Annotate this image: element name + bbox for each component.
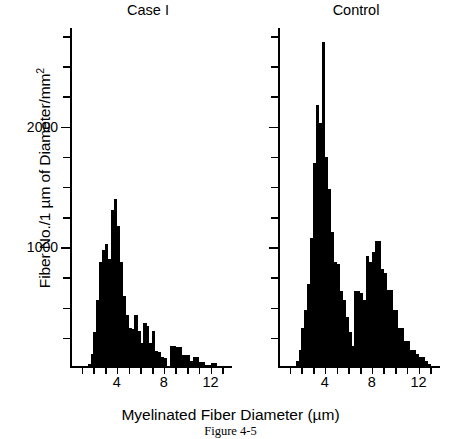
x-axis-tick-label: 4 bbox=[321, 374, 329, 390]
x-axis-tick-label: 12 bbox=[202, 374, 218, 390]
x-axis-tick-minor bbox=[140, 368, 142, 374]
panel-title-control: Control bbox=[270, 2, 442, 18]
plot-area-case-1 bbox=[70, 30, 234, 368]
y-axis-tick-minor bbox=[63, 36, 70, 38]
x-axis-tick-minor bbox=[187, 368, 189, 374]
x-axis-tick-major bbox=[372, 367, 374, 374]
y-axis-tick-minor bbox=[271, 66, 278, 68]
x-axis-tick-major bbox=[211, 367, 213, 374]
x-axis-tick-major bbox=[325, 367, 327, 374]
x-axis-tick-minor bbox=[395, 368, 397, 374]
figure-caption: Figure 4-5 bbox=[0, 424, 461, 439]
y-axis-tick-minor bbox=[63, 338, 70, 340]
x-axis-tick-minor bbox=[290, 368, 292, 374]
x-axis-title: Myelinated Fiber Diameter (µm) bbox=[0, 406, 461, 424]
y-axis-tick-minor bbox=[271, 308, 278, 310]
y-axis-tick-minor bbox=[63, 308, 70, 310]
x-axis-tick-minor bbox=[313, 368, 315, 374]
x-axis-tick-minor bbox=[348, 368, 350, 374]
y-axis-tick-minor bbox=[271, 217, 278, 219]
panel-title-case-1: Case I bbox=[62, 2, 234, 18]
x-axis-tick-minor bbox=[105, 368, 107, 374]
x-axis-tick-major bbox=[117, 367, 119, 374]
y-axis-tick-major bbox=[269, 127, 278, 129]
y-axis-tick-minor bbox=[271, 36, 278, 38]
y-axis-tick-major bbox=[269, 247, 278, 249]
y-axis-tick-minor bbox=[63, 217, 70, 219]
x-axis-tick-minor bbox=[82, 368, 84, 374]
y-axis-tick-minor bbox=[271, 96, 278, 98]
panel-case-1: Case I 10002000 4812 bbox=[62, 18, 234, 386]
plot-area-control bbox=[278, 30, 442, 368]
x-axis-tick-minor bbox=[175, 368, 177, 374]
figure-4-5: Fiber No./1 µm of Diameter/mm2 Case I 10… bbox=[0, 0, 461, 439]
y-axis-tick-minor bbox=[63, 187, 70, 189]
y-axis-tick-minor bbox=[271, 157, 278, 159]
x-axis-tick-minor bbox=[407, 368, 409, 374]
y-axis-tick-minor bbox=[63, 96, 70, 98]
x-axis-tick-label: 8 bbox=[368, 374, 376, 390]
x-axis-tick-minor bbox=[199, 368, 201, 374]
y-axis-tick-minor bbox=[63, 277, 70, 279]
y-axis-title-superscript: 2 bbox=[34, 68, 46, 74]
x-axis-tick-minor bbox=[360, 368, 362, 374]
histogram-bars-control bbox=[278, 30, 442, 368]
y-axis-tick-minor bbox=[63, 157, 70, 159]
y-axis-title: Fiber No./1 µm of Diameter/mm2 bbox=[34, 38, 54, 318]
x-axis-tick-minor bbox=[129, 368, 131, 374]
x-axis-tick-major bbox=[164, 367, 166, 374]
y-axis-tick-minor bbox=[271, 338, 278, 340]
x-axis-tick-minor bbox=[152, 368, 154, 374]
x-axis-tick-minor bbox=[93, 368, 95, 374]
y-axis-tick-label: 1000 bbox=[27, 239, 58, 255]
y-axis-tick-label: 2000 bbox=[27, 118, 58, 134]
x-axis-tick-minor bbox=[430, 368, 432, 374]
x-axis-tick-minor bbox=[222, 368, 224, 374]
x-axis-tick-label: 12 bbox=[410, 374, 426, 390]
x-axis-tick-major bbox=[419, 367, 421, 374]
y-axis-tick-major bbox=[61, 127, 70, 129]
y-axis-tick-minor bbox=[63, 66, 70, 68]
x-axis-tick-label: 4 bbox=[113, 374, 121, 390]
panel-control: Control 4812 bbox=[270, 18, 442, 386]
y-axis-title-text: Fiber No./1 µm of Diameter/mm bbox=[36, 74, 53, 288]
x-axis-tick-minor bbox=[383, 368, 385, 374]
y-axis-tick-minor bbox=[271, 277, 278, 279]
x-axis-tick-label: 8 bbox=[160, 374, 168, 390]
x-axis-tick-minor bbox=[337, 368, 339, 374]
x-axis-tick-minor bbox=[301, 368, 303, 374]
histogram-bars-case-1 bbox=[70, 30, 234, 368]
y-axis-tick-minor bbox=[271, 187, 278, 189]
y-axis-tick-major bbox=[61, 247, 70, 249]
